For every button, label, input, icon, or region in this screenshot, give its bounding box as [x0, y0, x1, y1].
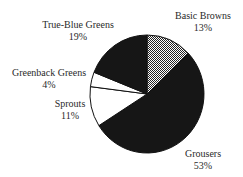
value-grousers: 53%: [194, 160, 212, 171]
value-sprouts: 11%: [61, 110, 79, 121]
label-greenback-greens: Greenback Greens: [12, 67, 86, 78]
pie-chart: Basic Browns 13% Grousers 53% Sprouts 11…: [0, 0, 243, 177]
value-true-blue-greens: 19%: [69, 31, 87, 42]
label-true-blue-greens: True-Blue Greens: [42, 19, 114, 30]
value-greenback-greens: 4%: [42, 79, 55, 90]
pie-slices: [90, 35, 204, 153]
label-grousers: Grousers: [185, 148, 221, 159]
label-basic-browns: Basic Browns: [175, 10, 231, 21]
label-sprouts: Sprouts: [55, 98, 86, 109]
value-basic-browns: 13%: [194, 22, 212, 33]
